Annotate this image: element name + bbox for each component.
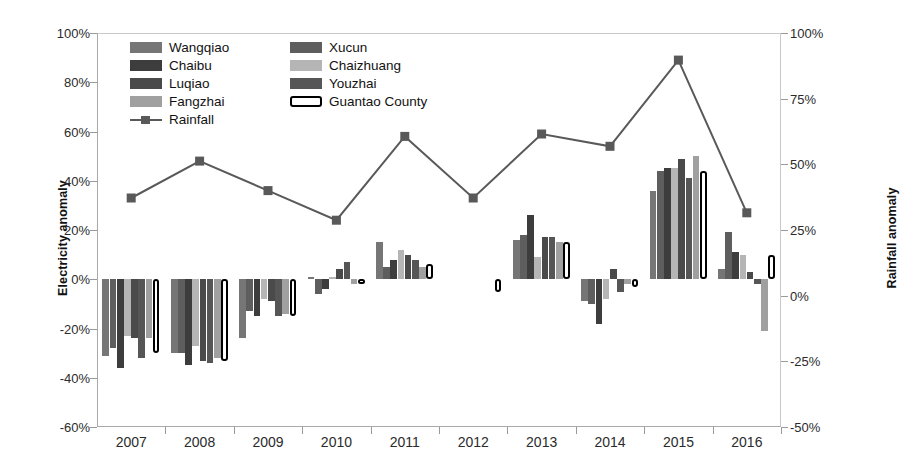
y-right-tick-label: 50%	[790, 157, 816, 172]
legend-label: Chaibu	[169, 58, 212, 73]
rainfall-marker	[674, 56, 683, 65]
x-tick-label: 2013	[507, 434, 575, 460]
x-tick-mark	[644, 427, 645, 434]
y-right-tick-mark	[781, 296, 788, 297]
legend-label: Xucun	[329, 40, 367, 55]
x-tick-label: 2009	[234, 434, 302, 460]
legend-item-youzhai[interactable]: Youzhai	[290, 76, 520, 91]
rainfall-marker	[537, 130, 546, 139]
y-axis-left-ticks: -60%-40%-20%0%20%40%60%80%100%	[37, 33, 90, 427]
y-left-tick-label: -20%	[60, 321, 90, 336]
rainfall-marker	[606, 142, 615, 151]
y-right-tick-label: 0%	[790, 288, 809, 303]
y-right-tick-label: -25%	[790, 354, 820, 369]
legend-item-luqiao[interactable]: Luqiao	[130, 76, 290, 91]
legend-swatch	[290, 96, 322, 107]
legend-label: Guantao County	[329, 94, 427, 109]
y-left-tick-label: 20%	[64, 223, 90, 238]
y-right-tick-mark	[781, 230, 788, 231]
y-left-tick-label: -60%	[60, 420, 90, 435]
y-right-tick-mark	[781, 33, 788, 34]
y-left-tick-mark	[90, 230, 97, 231]
legend-label: Wangqiao	[169, 40, 229, 55]
legend-item-guantao-county[interactable]: Guantao County	[290, 94, 520, 109]
x-tick-mark	[439, 427, 440, 434]
y-left-tick-label: 80%	[64, 75, 90, 90]
legend-label: Fangzhai	[169, 94, 225, 109]
legend-swatch	[130, 78, 162, 89]
rainfall-marker	[400, 132, 409, 141]
x-tick-label: 2007	[97, 434, 165, 460]
y-left-tick-label: 0%	[71, 272, 90, 287]
x-tick-label: 2014	[576, 434, 644, 460]
y-left-tick-label: 60%	[64, 124, 90, 139]
legend-item-wangqiao[interactable]: Wangqiao	[130, 40, 290, 55]
y-left-tick-mark	[90, 427, 97, 428]
y-right-tick-mark	[781, 164, 788, 165]
legend-item-xucun[interactable]: Xucun	[290, 40, 520, 55]
y-right-tick-label: 75%	[790, 91, 816, 106]
y-left-tick-label: 40%	[64, 173, 90, 188]
legend-item-chaizhuang[interactable]: Chaizhuang	[290, 58, 520, 73]
chart-container: Electricity anomaly Rainfall anomaly -60…	[0, 0, 901, 476]
legend-swatch	[290, 42, 322, 53]
y-axis-right-title: Rainfall anomaly	[886, 188, 900, 289]
y-right-tick-label: -50%	[790, 420, 820, 435]
x-tick-label: 2016	[713, 434, 781, 460]
legend-swatch	[130, 96, 162, 107]
x-tick-label: 2015	[644, 434, 712, 460]
rainfall-marker	[264, 186, 273, 195]
legend-spacer	[290, 112, 520, 127]
x-tick-label: 2011	[371, 434, 439, 460]
rainfall-marker	[127, 194, 136, 203]
y-left-tick-label: 100%	[57, 26, 90, 41]
legend-label: Luqiao	[169, 76, 210, 91]
x-tick-mark	[234, 427, 235, 434]
x-tick-label: 2010	[302, 434, 370, 460]
x-tick-mark	[302, 427, 303, 434]
y-right-tick-label: 25%	[790, 223, 816, 238]
legend-item-chaibu[interactable]: Chaibu	[130, 58, 290, 73]
y-left-tick-mark	[90, 378, 97, 379]
legend-swatch	[130, 42, 162, 53]
rainfall-marker	[195, 157, 204, 166]
legend-swatch	[130, 60, 162, 71]
x-tick-mark	[371, 427, 372, 434]
x-tick-mark	[781, 427, 782, 434]
y-left-tick-mark	[90, 181, 97, 182]
y-left-tick-mark	[90, 329, 97, 330]
chart-legend: WangqiaoXucunChaibuChaizhuangLuqiaoYouzh…	[130, 40, 520, 127]
legend-item-fangzhai[interactable]: Fangzhai	[130, 94, 290, 109]
y-right-tick-mark	[781, 427, 788, 428]
legend-label: Chaizhuang	[329, 58, 401, 73]
y-right-tick-label: 100%	[790, 26, 823, 41]
x-tick-mark	[576, 427, 577, 434]
legend-label: Youzhai	[329, 76, 377, 91]
x-tick-mark	[713, 427, 714, 434]
y-right-tick-mark	[781, 361, 788, 362]
x-tick-label: 2012	[439, 434, 507, 460]
rainfall-marker	[332, 216, 341, 225]
x-tick-label: 2008	[165, 434, 233, 460]
x-tick-mark	[165, 427, 166, 434]
y-left-tick-mark	[90, 279, 97, 280]
legend-item-rainfall[interactable]: Rainfall	[130, 112, 290, 127]
y-left-tick-mark	[90, 33, 97, 34]
x-axis-ticks: 2007200820092010201120122013201420152016	[97, 434, 781, 460]
legend-label: Rainfall	[169, 112, 214, 127]
rainfall-marker	[742, 208, 751, 217]
y-right-tick-mark	[781, 99, 788, 100]
y-left-tick-mark	[90, 132, 97, 133]
legend-swatch	[290, 78, 322, 89]
legend-swatch	[290, 60, 322, 71]
x-tick-mark	[507, 427, 508, 434]
y-axis-right-ticks: 100%75%50%25%0%-25%-50%	[790, 33, 850, 427]
legend-line-swatch	[130, 114, 162, 125]
y-left-tick-label: -40%	[60, 370, 90, 385]
rainfall-marker	[469, 194, 478, 203]
y-left-tick-mark	[90, 82, 97, 83]
